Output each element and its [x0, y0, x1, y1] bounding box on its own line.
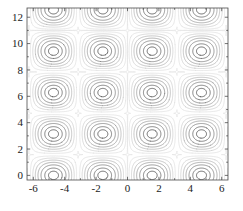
y-tick-label: 12 [12, 11, 23, 23]
y-tick-label: 0 [18, 169, 24, 181]
y-tick-label: 2 [18, 143, 24, 155]
plot-canvas: -6-4-20246 024681012 [0, 0, 243, 211]
y-tick-label: 10 [12, 37, 24, 49]
y-tick-label: 8 [18, 64, 24, 76]
x-tick-label: -4 [60, 182, 70, 194]
x-tick-label: -2 [92, 182, 101, 194]
x-tick-label: -6 [29, 182, 39, 194]
contour-plot-figure: -6-4-20246 024681012 [0, 0, 243, 211]
x-tick-label: 6 [219, 182, 225, 194]
x-tick-label: 4 [188, 182, 194, 194]
x-tick-label: 0 [125, 182, 131, 194]
y-tick-label: 6 [18, 90, 24, 102]
x-tick-label: 2 [156, 182, 162, 194]
y-tick-label: 4 [18, 116, 24, 128]
